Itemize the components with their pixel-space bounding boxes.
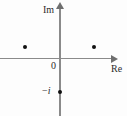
real-axis-label: Re xyxy=(111,64,122,74)
imaginary-axis-line xyxy=(59,7,61,116)
real-axis-line xyxy=(0,58,115,59)
imaginary-unit-glyph: i xyxy=(48,85,51,96)
data-point-upper-right xyxy=(92,45,96,49)
complex-plane-figure: Im Re 0 −i xyxy=(0,0,127,116)
minus-i-tick-label: −i xyxy=(42,86,50,96)
data-point-upper-left xyxy=(23,45,27,49)
data-point-minus-i xyxy=(58,90,62,94)
real-axis-arrow-icon xyxy=(111,55,118,63)
imaginary-axis-arrow-icon xyxy=(56,2,64,9)
imaginary-axis-label: Im xyxy=(43,5,54,15)
origin-label: 0 xyxy=(51,61,56,71)
